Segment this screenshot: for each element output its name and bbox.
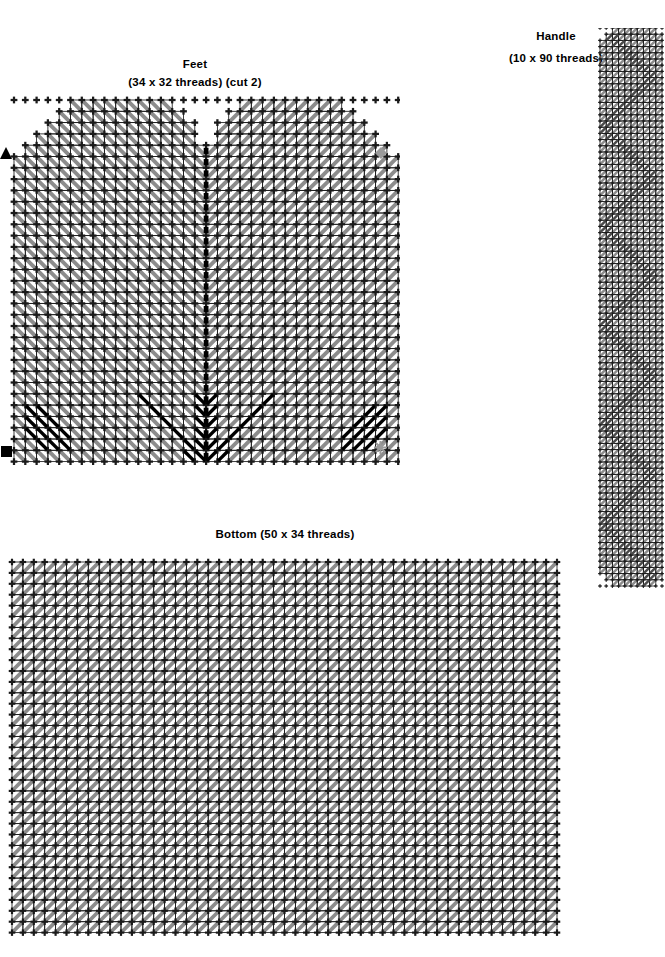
right-diamond-marker bbox=[375, 145, 387, 163]
pattern-sheet: Feet (34 x 32 threads) (cut 2) Bottom (5 bbox=[0, 0, 665, 957]
feet-chart-panel: Feet (34 x 32 threads) (cut 2) bbox=[0, 88, 400, 468]
handle-stitch-grid bbox=[596, 28, 665, 957]
bottom-chart-title: Bottom (50 x 34 threads) bbox=[0, 528, 570, 540]
bottom-chart-panel: Bottom (50 x 34 threads) bbox=[0, 552, 580, 942]
bottom-stitch-grid bbox=[0, 552, 580, 942]
bottom-left-square-marker bbox=[1, 443, 12, 461]
bottom-right-asterisk-marker bbox=[374, 440, 387, 458]
handle-chart-panel: Handle (10 x 90 threads) bbox=[596, 28, 665, 957]
left-triangle-marker bbox=[0, 146, 12, 164]
feet-stitch-grid bbox=[0, 88, 400, 468]
feet-chart-subtitle: (34 x 32 threads) (cut 2) bbox=[0, 76, 390, 88]
feet-chart-title: Feet bbox=[0, 58, 390, 70]
